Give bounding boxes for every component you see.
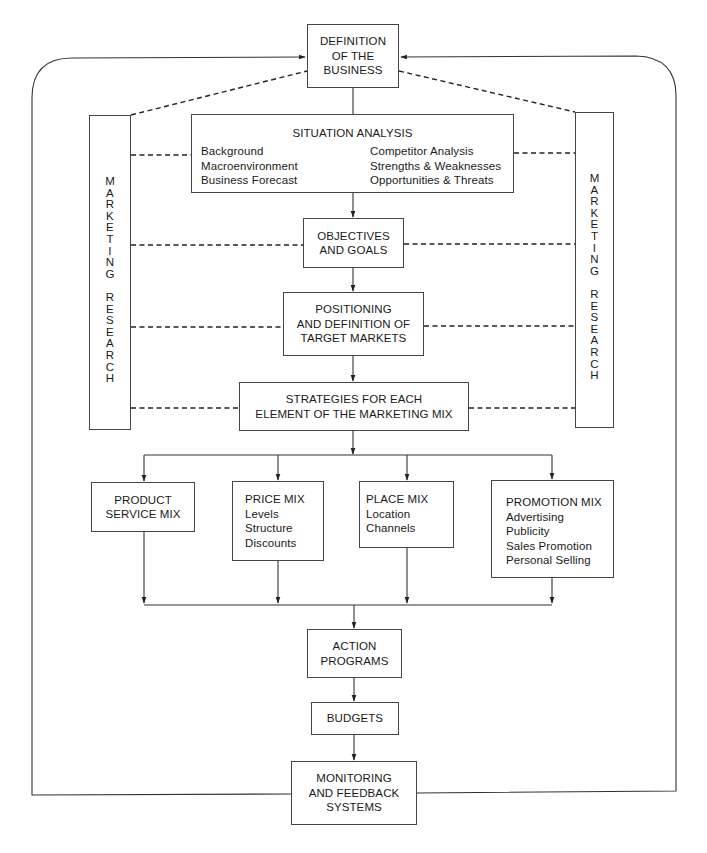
research-letter: H [106,373,114,385]
place-item-location: Location [366,507,453,522]
strategies-line-2: ELEMENT OF THE MARKETING MIX [255,407,452,422]
research-letter: R [590,289,598,301]
action-line-2: PROGRAMS [321,654,389,669]
monitoring-line-3: SYSTEMS [326,800,382,815]
positioning-line-2: AND DEFINITION OF [297,317,411,332]
budgets-box: BUDGETS [311,702,399,735]
price-item-structure: Structure [245,521,323,536]
positioning-line-3: TARGET MARKETS [301,331,407,346]
promotion-mix-box: PROMOTION MIX Advertising Publicity Sale… [491,480,614,578]
monitoring-line-1: MONITORING [316,771,392,786]
promotion-item-publicity: Publicity [506,524,613,539]
research-letter: S [591,312,599,324]
objectives-line-1: OBJECTIVES [317,229,390,244]
research-letter: N [106,257,114,269]
research-letter: N [590,254,598,266]
research-letter: T [591,231,598,243]
situation-item-opportunities-threats: Opportunities & Threats [370,173,501,188]
price-mix-box: PRICE MIX Levels Structure Discounts [232,481,324,561]
situation-item-business-forecast: Business Forecast [201,173,298,188]
research-letter: H [590,370,598,382]
place-mix-box: PLACE MIX Location Channels [359,481,454,548]
research-letter: G [590,266,599,278]
product-line-2: SERVICE MIX [105,507,180,522]
objectives-line-2: AND GOALS [319,243,387,258]
situation-right-column: Competitor Analysis Strengths & Weakness… [370,144,501,188]
research-letter: M [105,176,115,188]
positioning-box: POSITIONING AND DEFINITION OF TARGET MAR… [283,292,424,356]
marketing-research-right-panel: M A R K E T I N G R E S E A R C H [575,112,614,428]
definition-line-2: OF THE [332,49,375,64]
situation-analysis-box: SITUATION ANALYSIS Background Macroenvir… [191,114,514,193]
research-letter: S [106,315,114,327]
promotion-item-sales-promotion: Sales Promotion [506,539,613,554]
action-line-1: ACTION [332,639,376,654]
objectives-goals-box: OBJECTIVES AND GOALS [303,218,404,268]
situation-left-column: Background Macroenvironment Business For… [201,144,298,188]
marketing-research-left-panel: M A R K E T I N G R E S E A R C H [89,115,131,430]
budgets-label: BUDGETS [327,711,383,726]
research-letter: R [106,292,114,304]
definition-of-business-box: DEFINITION OF THE BUSINESS [307,24,399,88]
positioning-line-1: POSITIONING [315,302,392,317]
research-letter: R [590,347,598,359]
price-item-discounts: Discounts [245,536,323,551]
promotion-item-advertising: Advertising [506,510,613,525]
price-item-levels: Levels [245,507,323,522]
research-letter: T [106,234,113,246]
situation-item-competitor-analysis: Competitor Analysis [370,144,501,159]
strategies-line-1: STRATEGIES FOR EACH [286,392,423,407]
monitoring-line-2: AND FEEDBACK [309,786,400,801]
definition-line-3: BUSINESS [324,63,383,78]
price-mix-title: PRICE MIX [245,492,323,507]
research-letter: G [105,269,114,281]
place-item-channels: Channels [366,521,453,536]
situation-analysis-title: SITUATION ANALYSIS [192,126,513,141]
strategies-box: STRATEGIES FOR EACH ELEMENT OF THE MARKE… [239,382,469,431]
place-mix-title: PLACE MIX [366,492,453,507]
promotion-mix-title: PROMOTION MIX [506,495,613,510]
marketing-plan-flowchart: DEFINITION OF THE BUSINESS SITUATION ANA… [0,0,707,853]
product-line-1: PRODUCT [114,493,172,508]
product-service-mix-box: PRODUCT SERVICE MIX [91,482,195,532]
situation-item-strengths-weaknesses: Strengths & Weaknesses [370,159,501,174]
situation-item-macroenvironment: Macroenvironment [201,159,298,174]
promotion-item-personal-selling: Personal Selling [506,553,613,568]
research-letter: R [106,350,114,362]
monitoring-feedback-box: MONITORING AND FEEDBACK SYSTEMS [291,761,417,825]
definition-line-1: DEFINITION [320,34,386,49]
action-programs-box: ACTION PROGRAMS [307,629,402,678]
research-letter: M [590,173,600,185]
situation-item-background: Background [201,144,298,159]
